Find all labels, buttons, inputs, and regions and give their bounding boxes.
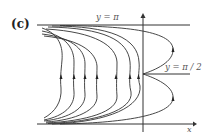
arrow-up-icon [96,74,99,79]
y-axis-arrow-icon [141,13,146,18]
arrow-up-icon [172,96,175,101]
label-y-pi: y = π [96,13,119,22]
arrow-up-icon [129,74,132,79]
trajectory-family [42,26,173,125]
arrow-up-icon [137,74,140,79]
label-y-pi-half: y = π / 2 [165,63,202,72]
arrow-up-icon [84,74,87,79]
arrow-up-icon [73,74,76,79]
panel-label: (c) [11,18,30,30]
arrow-up-icon [60,74,63,79]
arrow-up-icon [172,47,175,52]
label-x-axis: x [187,126,192,134]
x-axis-arrow-icon [193,122,197,127]
